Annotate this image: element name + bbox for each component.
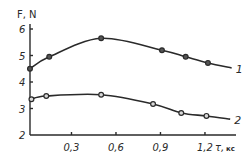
series-1: 1 [28, 36, 243, 76]
chart-canvas: 23456 0,30,60,91,2 F, N τ, кс 12 [0, 0, 250, 164]
data-point-marker [204, 114, 209, 119]
y-tick-label: 6 [19, 24, 25, 35]
series-2: 2 [29, 92, 241, 127]
series-line [31, 94, 230, 119]
series-line [30, 38, 232, 69]
data-point-marker [99, 36, 104, 41]
data-point-marker [160, 48, 165, 53]
data-point-marker [47, 54, 52, 59]
x-tick-label: 1,2 [197, 142, 213, 153]
data-point-marker [179, 111, 184, 116]
series-label: 1 [236, 63, 243, 76]
data-point-marker [99, 92, 104, 97]
y-axis-label: F, N [17, 9, 37, 20]
data-point-marker [206, 61, 211, 66]
x-axis-label: τ, кс [215, 142, 235, 153]
x-axis-symbol: τ, [215, 142, 224, 153]
x-tick-label: 0,6 [108, 142, 124, 153]
y-ticks: 23456 [19, 24, 33, 141]
data-point-marker [29, 97, 34, 102]
series-group: 12 [28, 36, 243, 127]
y-tick-label: 5 [19, 51, 25, 62]
data-point-marker [183, 54, 188, 59]
x-axis-unit: кс [226, 145, 235, 153]
data-point-marker [44, 94, 49, 99]
y-tick-label: 4 [19, 77, 25, 88]
y-tick-label: 3 [19, 104, 25, 115]
line-chart: 23456 0,30,60,91,2 F, N τ, кс 12 [0, 0, 250, 164]
data-point-marker [151, 102, 156, 107]
data-point-marker [28, 66, 33, 71]
x-tick-label: 0,9 [152, 142, 168, 153]
x-tick-label: 0,3 [63, 142, 79, 153]
y-tick-label: 2 [19, 130, 25, 141]
series-label: 2 [234, 114, 241, 127]
